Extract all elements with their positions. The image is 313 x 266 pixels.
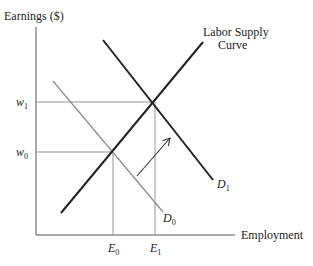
- labor-supply-curve: [61, 42, 203, 213]
- w0-tick-label: w0: [16, 145, 28, 161]
- d1-label: D1: [216, 177, 230, 193]
- x-axis-label: Employment: [241, 228, 304, 242]
- shift-arrow-icon: [137, 138, 170, 176]
- d0-label: D0: [162, 211, 176, 227]
- y-axis-label: Earnings ($): [4, 9, 64, 23]
- labor-market-diagram: Earnings ($) Employment Labor Supply Cur…: [0, 0, 313, 266]
- demand-curve-d1: [103, 40, 213, 180]
- supply-label-line1: Labor Supply: [203, 25, 269, 39]
- demand-curve-d0: [53, 81, 163, 212]
- supply-label-line2: Curve: [218, 38, 247, 52]
- e1-tick-label: E1: [149, 241, 161, 257]
- w1-tick-label: w1: [16, 95, 28, 111]
- e0-tick-label: E0: [107, 241, 119, 257]
